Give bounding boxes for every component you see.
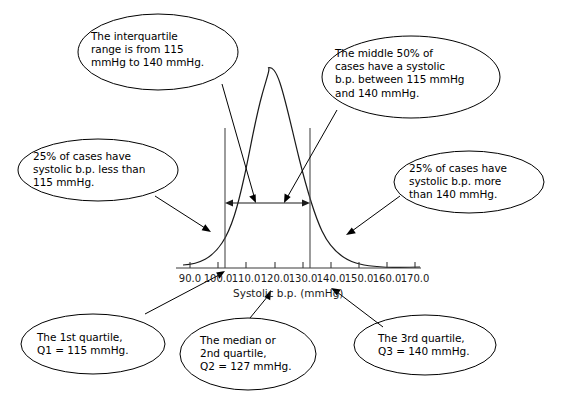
iqr-callout-text: The interquartile range is from 115 mmHg… [91,30,231,70]
x-axis-title: Systolic b.p. (mmHg) [233,287,343,299]
q3-callout-text: The 3rd quartile, Q3 = 140 mmHg. [378,332,493,358]
upper-quarter-callout-text: 25% of cases have systolic b.p. more tha… [409,162,534,202]
middle-half-callout-text: The middle 50% of cases have a systolic … [335,47,497,100]
lower-quarter-callout-leader [155,196,211,232]
q2-callout-text: The median or 2nd quartile, Q2 = 127 mmH… [200,334,310,374]
diagram-canvas: The interquartile range is from 115 mmHg… [0,0,565,404]
upper-quarter-callout-leader [346,196,400,235]
x-tick-label-170: 170.0 [391,273,439,284]
lower-quarter-callout-text: 25% of cases have systolic b.p. less tha… [33,150,178,190]
q1-callout-text: The 1st quartile, Q1 = 115 mmHg. [37,331,157,357]
